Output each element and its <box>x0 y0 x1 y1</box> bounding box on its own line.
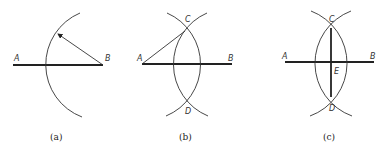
construction-diagram: A B (a) A B C D (b) A B C D E (c) <box>0 0 384 154</box>
caption-c: (c) <box>323 132 335 142</box>
label-b: B <box>105 54 111 63</box>
label-e: E <box>334 67 340 76</box>
panel-a: A B (a) <box>13 13 111 142</box>
label-a: A <box>136 54 142 63</box>
label-d: D <box>185 107 191 116</box>
label-a: A <box>13 54 19 63</box>
panel-c: A B C D E (c) <box>281 11 376 142</box>
label-c: C <box>329 15 335 24</box>
label-b: B <box>228 54 234 63</box>
label-c: C <box>185 15 191 24</box>
label-b: B <box>370 52 376 61</box>
panel-b: A B C D (b) <box>136 13 234 142</box>
caption-b: (b) <box>179 132 192 142</box>
radius-line <box>142 31 185 64</box>
label-a: A <box>281 52 287 61</box>
radius-arrow <box>58 34 103 65</box>
caption-a: (a) <box>50 132 62 142</box>
label-d: D <box>329 104 335 113</box>
